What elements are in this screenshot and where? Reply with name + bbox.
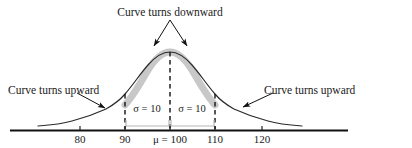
axis-tick-label-80: 80 bbox=[75, 134, 86, 145]
axis-tick-label-120: 120 bbox=[254, 134, 271, 145]
sigma-label-right: σ = 10 bbox=[178, 104, 205, 115]
sigma-bracket-right bbox=[171, 120, 214, 126]
top-callout-arrow-right bbox=[170, 20, 187, 46]
top-callout-arrow-left bbox=[154, 20, 170, 46]
sigma-label-left: σ = 10 bbox=[133, 104, 160, 115]
figure-canvas bbox=[0, 0, 412, 148]
axis-tick-label-mean: μ = 100 bbox=[153, 134, 187, 145]
axis-tick-label-110: 110 bbox=[207, 134, 223, 145]
sigma-bracket-left bbox=[126, 120, 169, 126]
normal-curve-concavity-figure: Curve turns downward Curve turns upward … bbox=[0, 0, 412, 148]
callout-left-label: Curve turns upward bbox=[8, 85, 99, 97]
callout-right-label: Curve turns upward bbox=[264, 85, 355, 97]
callout-top-label: Curve turns downward bbox=[117, 7, 222, 19]
axis-tick-label-90: 90 bbox=[120, 134, 131, 145]
